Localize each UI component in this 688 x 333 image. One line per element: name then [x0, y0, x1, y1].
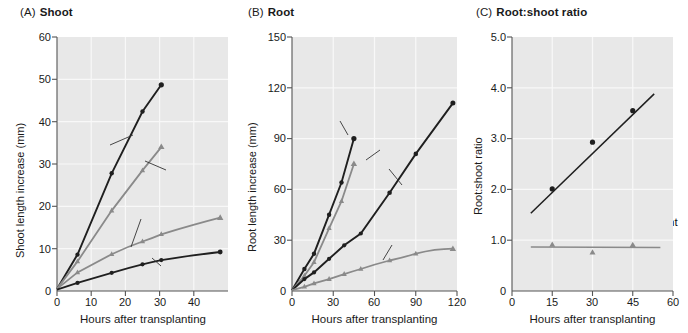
panel-a-shoot: (A)Shoot Shoot length increase (mm) 60 5… — [0, 0, 232, 333]
panel-b-root: (B)Root Root length increase (mm) 150 12… — [232, 0, 460, 333]
figure-root: (A)Shoot Shoot length increase (mm) 60 5… — [0, 0, 688, 333]
panel-c-fitline-aba-deficient-mutant — [531, 247, 661, 248]
panel-a-plot — [0, 0, 232, 333]
panel-b-plot — [232, 0, 460, 333]
panel-c-plot — [460, 0, 688, 333]
panel-c-root-shoot-ratio: (C)Root:shoot ratio Root:shoot ratio 5.0… — [460, 0, 688, 333]
